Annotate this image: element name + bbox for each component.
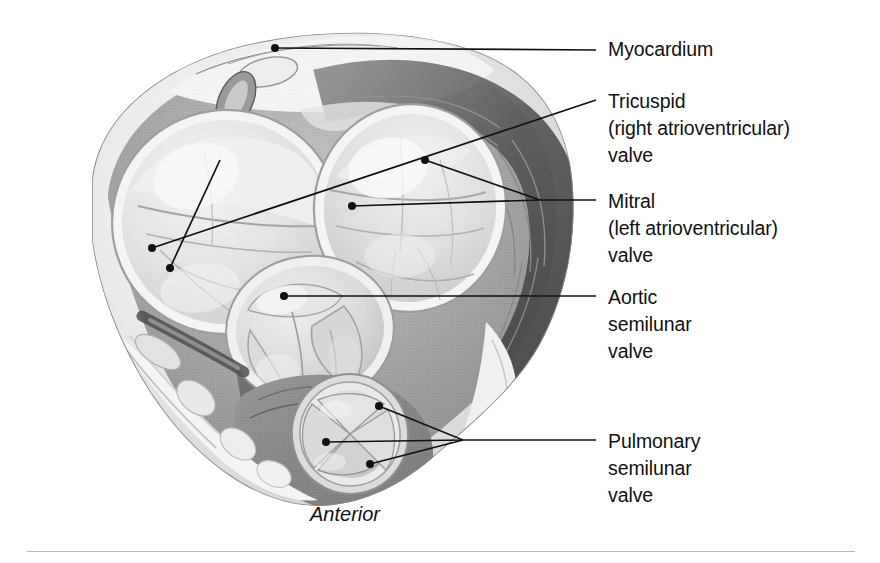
dot-mitral-a [148,244,156,252]
dot-pulmonary-c [366,460,374,468]
dot-pulmonary-b [322,438,330,446]
label-pulmonary-line-2: semilunar [608,455,700,482]
label-aortic: Aortic semilunar valve [608,284,692,365]
label-mitral-line-3: valve [608,242,778,269]
label-tricuspid: Tricuspid (right atrioventricular) valve [608,88,790,169]
label-pulmonary-line-1: Pulmonary [608,428,700,455]
label-mitral-line-1: Mitral [608,188,778,215]
dot-tricuspid [421,156,429,164]
label-mitral: Mitral (left atrioventricular) valve [608,188,778,269]
dot-mitral-c [348,202,356,210]
heart-valve-plane-figure: Myocardium Tricuspid (right atrioventric… [0,0,880,563]
label-tricuspid-line-1: Tricuspid [608,88,790,115]
label-pulmonary: Pulmonary semilunar valve [608,428,700,509]
dot-mitral-b [166,264,174,272]
label-mitral-line-2: (left atrioventricular) [608,215,778,242]
figure-footer-rule [27,551,855,552]
label-tricuspid-line-3: valve [608,142,790,169]
dot-pulmonary-a [375,402,383,410]
label-myocardium: Myocardium [608,36,713,63]
label-pulmonary-line-3: valve [608,482,700,509]
label-myocardium-line-1: Myocardium [608,36,713,63]
label-aortic-line-1: Aortic [608,284,692,311]
dot-aortic [280,292,288,300]
label-tricuspid-line-2: (right atrioventricular) [608,115,790,142]
dot-myocardium [271,44,279,52]
anatomy-illustration [0,0,880,563]
orientation-caption: Anterior [310,503,380,526]
label-aortic-line-2: semilunar [608,311,692,338]
label-aortic-line-3: valve [608,338,692,365]
